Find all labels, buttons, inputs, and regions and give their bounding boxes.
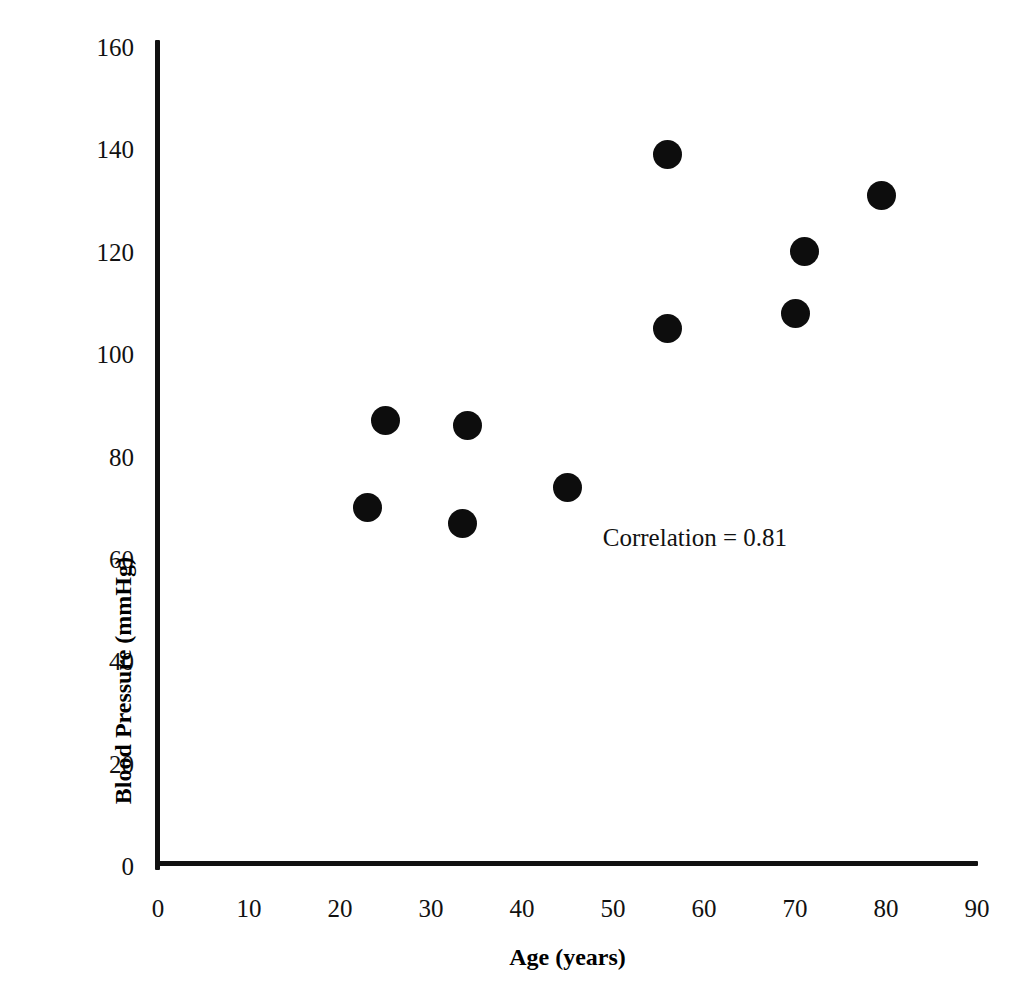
data-point — [553, 473, 582, 502]
x-tick-label: 0 — [152, 896, 165, 921]
data-point — [781, 299, 810, 328]
y-tick-label: 0 — [60, 854, 134, 879]
y-tick-label: 140 — [60, 137, 134, 162]
data-point — [653, 140, 682, 169]
y-tick-label: 120 — [60, 239, 134, 264]
scatter-plot-figure: 020406080100120140160 010203040506070809… — [0, 0, 1025, 1007]
x-tick-label: 80 — [874, 896, 899, 921]
data-point — [453, 411, 482, 440]
y-tick-label: 160 — [60, 35, 134, 60]
y-axis-title: Blood Pressure (mmHg) — [110, 434, 137, 681]
y-tick-label: 100 — [60, 342, 134, 367]
data-point — [353, 493, 382, 522]
data-point — [867, 181, 896, 210]
x-axis-title-text: Age (years) — [509, 944, 626, 970]
x-tick-label: 70 — [783, 896, 808, 921]
x-tick-label: 40 — [510, 896, 535, 921]
data-point — [790, 237, 819, 266]
plot-area — [158, 47, 977, 866]
x-tick-label: 20 — [328, 896, 353, 921]
x-axis-title: Age (years) — [0, 944, 1025, 971]
data-point — [448, 509, 477, 538]
x-tick-label: 10 — [237, 896, 262, 921]
x-tick-label: 30 — [419, 896, 444, 921]
data-point — [653, 314, 682, 343]
data-point — [371, 406, 400, 435]
x-tick-label: 60 — [692, 896, 717, 921]
x-tick-label: 90 — [965, 896, 990, 921]
x-tick-label: 50 — [601, 896, 626, 921]
correlation-annotation: Correlation = 0.81 — [603, 524, 787, 552]
y-axis-title-text: Blood Pressure (mmHg) — [110, 557, 137, 804]
